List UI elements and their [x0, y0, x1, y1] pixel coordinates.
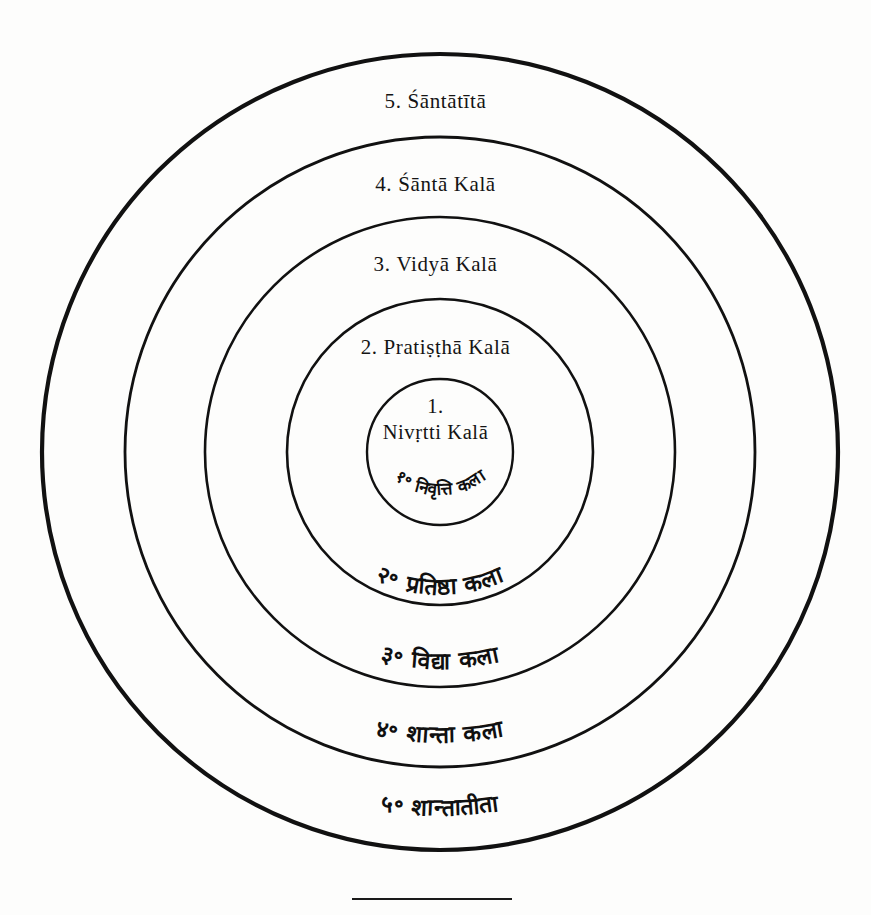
footer-rule: [352, 898, 512, 900]
devanagari-label-2-text: २॰ प्रतिष्ठा कला: [373, 561, 508, 600]
ring-label-3: 3.Vidyā Kalā: [0, 252, 871, 278]
devanagari-label-4-text: ४॰ शान्ता कला: [374, 715, 506, 747]
devanagari-label-1: १॰ निवृत्ति कला: [392, 465, 489, 500]
ring-name-1: Nivṛtti Kalā: [0, 420, 871, 445]
ring-index-1: 1.: [0, 394, 871, 419]
devanagari-label-4: ४॰ शान्ता कला: [374, 715, 506, 747]
ring-name-3: Vidyā Kalā: [397, 252, 498, 276]
ring-index-3: 3.: [374, 252, 391, 276]
devanagari-label-2: २॰ प्रतिष्ठा कला: [373, 561, 508, 600]
ring-label-5: 5.Śāntātītā: [0, 89, 871, 115]
devanagari-label-3-text: ३॰ विद्या कला: [379, 641, 501, 674]
ring-label-1: 1. Nivṛtti Kalā: [0, 394, 871, 445]
ring-circle-3: [205, 217, 675, 687]
devanagari-label-1-text: १॰ निवृत्ति कला: [392, 465, 489, 500]
devanagari-label-5-text: ५॰ शान्तातीता: [379, 790, 500, 820]
diagram-canvas: १॰ निवृत्ति कला २॰ प्रतिष्ठा कला ३॰ विद्…: [0, 0, 871, 915]
ring-index-5: 5.: [385, 89, 402, 113]
ring-label-2: 2.Pratiṣṭhā Kalā: [0, 335, 871, 361]
ring-name-2: Pratiṣṭhā Kalā: [384, 335, 511, 359]
devanagari-label-5: ५॰ शान्तातीता: [379, 790, 500, 820]
ring-name-5: Śāntātītā: [408, 89, 487, 113]
ring-index-2: 2.: [361, 335, 378, 359]
figure-concentric-kala-diagram: १॰ निवृत्ति कला २॰ प्रतिष्ठा कला ३॰ विद्…: [0, 0, 871, 915]
devanagari-label-3: ३॰ विद्या कला: [379, 641, 501, 674]
ring-name-4: Śāntā Kalā: [398, 172, 496, 196]
ring-index-4: 4.: [375, 172, 392, 196]
ring-label-4: 4.Śāntā Kalā: [0, 172, 871, 198]
